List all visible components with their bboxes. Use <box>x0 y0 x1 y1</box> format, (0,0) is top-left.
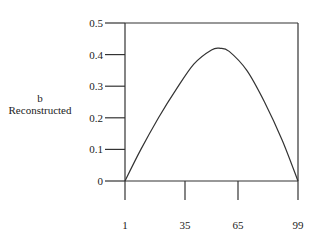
svg-text:0.3: 0.3 <box>89 80 103 92</box>
svg-text:0.2: 0.2 <box>89 112 103 124</box>
svg-text:0.4: 0.4 <box>89 49 103 61</box>
y-tick-labels: 0.5 0.4 0.3 0.2 0.1 0 <box>89 17 103 187</box>
x-tick-labels: 1 35 65 99 <box>122 219 304 231</box>
svg-text:0: 0 <box>98 175 104 187</box>
svg-text:0.5: 0.5 <box>89 17 103 29</box>
svg-text:99: 99 <box>293 219 305 231</box>
chart: 0.5 0.4 0.3 0.2 0.1 0 1 35 65 99 <box>0 0 318 246</box>
y-axis-label: b Reconstructed <box>2 92 78 116</box>
x-ticks <box>185 181 238 200</box>
data-line <box>125 48 298 181</box>
svg-text:65: 65 <box>233 219 245 231</box>
svg-text:35: 35 <box>180 219 192 231</box>
y-axis-label-line2: Reconstructed <box>2 104 78 116</box>
y-axis-label-line1: b <box>2 92 78 104</box>
svg-text:0.1: 0.1 <box>89 143 103 155</box>
svg-text:1: 1 <box>122 219 128 231</box>
y-ticks <box>105 23 125 181</box>
